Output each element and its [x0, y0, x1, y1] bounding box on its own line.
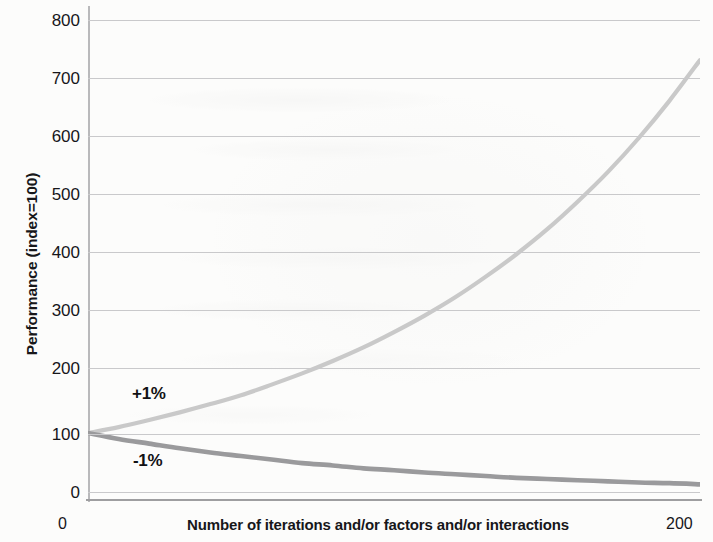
chart-figure: Performance (index=100) 800 700 600 500 … — [0, 0, 713, 542]
x-tick-200: 200 — [666, 516, 693, 532]
gridline-700 — [88, 78, 700, 79]
gridline-800 — [88, 20, 700, 21]
y-tick-100: 100 — [18, 426, 80, 443]
y-axis-tick-labels: 800 700 600 500 400 300 200 100 0 — [18, 0, 80, 542]
series-line-minus-one-percent — [88, 433, 700, 484]
y-tick-500: 500 — [18, 186, 80, 203]
gridline-500 — [88, 194, 700, 195]
gridline-400 — [88, 252, 700, 253]
gridline-100 — [88, 434, 700, 435]
gridline-0 — [88, 492, 700, 493]
y-tick-300: 300 — [18, 302, 80, 319]
series-line-plus-one-percent — [88, 60, 700, 433]
y-tick-400: 400 — [18, 244, 80, 261]
x-tick-0: 0 — [58, 516, 67, 532]
gridline-300 — [88, 310, 700, 311]
series-annotation-plus-one-percent: +1% — [132, 384, 166, 404]
y-tick-0: 0 — [18, 484, 80, 501]
plot-area — [88, 8, 700, 500]
y-tick-600: 600 — [18, 128, 80, 145]
gridline-200 — [88, 368, 700, 369]
y-tick-200: 200 — [18, 360, 80, 377]
y-tick-800: 800 — [18, 12, 80, 29]
gridline-600 — [88, 136, 700, 137]
series-curves — [88, 8, 700, 500]
y-tick-700: 700 — [18, 70, 80, 87]
x-axis-title: Number of iterations and/or factors and/… — [88, 516, 668, 533]
series-annotation-minus-one-percent: -1% — [133, 451, 162, 471]
